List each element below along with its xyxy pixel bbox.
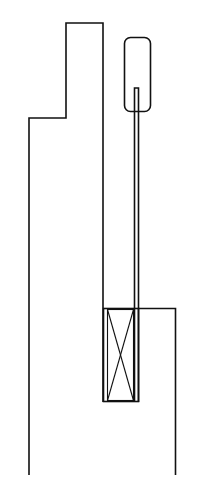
stepped-housing — [29, 23, 103, 475]
capsule — [125, 38, 151, 112]
diagram-canvas — [0, 0, 219, 488]
right-wall — [139, 309, 176, 476]
